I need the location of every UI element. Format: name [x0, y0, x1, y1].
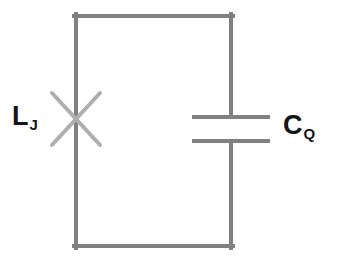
inductor-label-base: L — [12, 101, 29, 131]
circuit-diagram-figure: LJ CQ — [0, 0, 338, 263]
inductor-label: LJ — [12, 103, 38, 132]
capacitor-label-base: C — [283, 110, 303, 140]
inductor-label-subscript: J — [30, 116, 38, 133]
capacitor-label: CQ — [283, 112, 315, 141]
capacitor-label-subscript: Q — [304, 125, 316, 142]
capacitor-symbol — [192, 117, 270, 141]
wire-group — [74, 14, 233, 248]
